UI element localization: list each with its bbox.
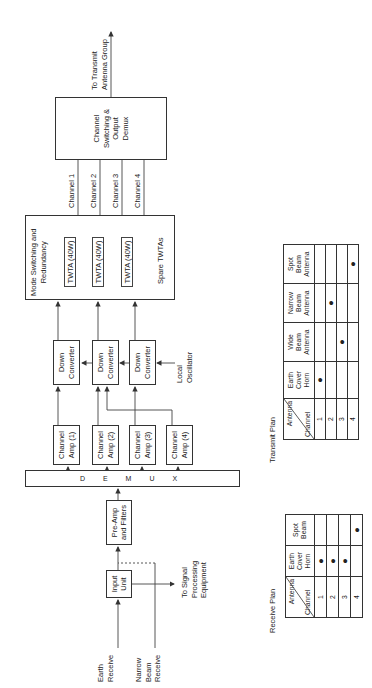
channel-1-label: Channel 1 xyxy=(67,174,77,208)
receive-row-channel: 1 xyxy=(315,577,327,618)
pre-amp-filters-block: Pre-Amp and Filters xyxy=(106,500,132,545)
transmit-mark xyxy=(337,245,348,284)
down-converter-1: Down Converter xyxy=(53,340,80,385)
transmit-mark xyxy=(337,362,348,399)
spare-twtas-label: Spare TWTAs xyxy=(156,238,166,284)
transmit-mark xyxy=(315,284,326,323)
receive-row-channel: 3 xyxy=(339,577,351,618)
to-transmit-antenna-label: To Transmit Antenna Group xyxy=(90,39,109,90)
receive-mark: ● xyxy=(339,546,351,577)
receive-mark: ● xyxy=(315,546,327,577)
transmit-mark xyxy=(348,323,359,362)
receive-corner-antenna: Antenna xyxy=(288,579,296,604)
transmit-mark xyxy=(326,245,337,284)
transmit-row-channel: 4 xyxy=(348,399,359,440)
receive-row-channel: 2 xyxy=(327,577,339,618)
transmit-row-channel: 1 xyxy=(315,399,326,440)
channel-switching-output-demux-block: Channel Switching & Output Demux xyxy=(55,97,167,160)
transmit-mark: ● xyxy=(315,362,326,399)
receive-col-spot-beam: Spot Beam xyxy=(286,515,315,546)
transmit-plan-title: Transmit Plan xyxy=(268,417,277,463)
receive-corner-channel: Channel xyxy=(304,590,312,615)
transmit-mark: ● xyxy=(337,323,348,362)
transmit-row-channel: 3 xyxy=(337,399,348,440)
down-converter-2: Down Converter xyxy=(92,340,119,385)
receive-mark: ● xyxy=(327,546,339,577)
transmit-mark xyxy=(348,362,359,399)
transmit-mark: ● xyxy=(326,284,337,323)
transmit-mark xyxy=(337,284,348,323)
twta-3: TWTA (40W) xyxy=(121,237,133,287)
transmit-mark xyxy=(326,323,337,362)
channel-amp-3: Channel Amp (3) xyxy=(129,425,156,465)
receive-plan-table: Antenna Channel Earth Cover Horn Spot Be… xyxy=(285,514,363,618)
channel-amp-1: Channel Amp (1) xyxy=(53,425,80,465)
receive-mark: ● xyxy=(351,515,363,546)
receive-mark xyxy=(339,515,351,546)
transmit-mark xyxy=(315,323,326,362)
receive-plan-title: Receive Plan xyxy=(268,589,277,633)
channel-3-label: Channel 3 xyxy=(111,174,121,208)
to-signal-processing-label: To Signal Processing Equipment xyxy=(180,561,209,598)
transmit-corner-antenna: Antenna xyxy=(286,401,294,426)
receive-mark xyxy=(315,515,327,546)
transmit-corner-cell: Antenna Channel xyxy=(284,399,315,440)
transmit-mark xyxy=(315,245,326,284)
channel-amp-2: Channel Amp (2) xyxy=(92,425,119,465)
channel-2-label: Channel 2 xyxy=(89,174,99,208)
receive-mark xyxy=(327,515,339,546)
earth-receive-label: Earth Receive xyxy=(96,655,115,682)
twta-2: TWTA (40W) xyxy=(92,237,104,287)
transmit-col-spot-beam: Spot Beam Antenna xyxy=(284,245,315,284)
transmit-col-earth-cover: Earth Cover Horn xyxy=(284,362,315,399)
transmit-mark xyxy=(326,362,337,399)
narrow-beam-receive-label: Narrow Beam Receive xyxy=(134,655,163,682)
channel-amp-4: Channel Amp (4) xyxy=(166,425,193,465)
receive-corner-cell: Antenna Channel xyxy=(286,577,315,618)
down-converter-3: Down Converter xyxy=(129,340,156,385)
transmit-plan-table: Antenna Channel Earth Cover Horn Wide Be… xyxy=(283,244,359,440)
demux-block: D E M U X xyxy=(25,470,240,487)
transmit-row-channel: 2 xyxy=(326,399,337,440)
local-oscillator-label: Local Oscillator xyxy=(175,352,194,383)
input-unit-block: Input Unit xyxy=(106,570,132,598)
mode-switching-block: Mode Switching and Redundancy TWTA (40W)… xyxy=(25,215,175,300)
transmit-corner-channel: Channel xyxy=(304,412,312,437)
channel-4-label: Channel 4 xyxy=(133,174,143,208)
receive-col-earth-cover: Earth Cover Horn xyxy=(286,546,315,577)
twta-1: TWTA (40W) xyxy=(64,237,76,287)
transmit-mark xyxy=(348,284,359,323)
mode-switching-title: Mode Switching and Redundancy xyxy=(29,228,48,296)
transmit-col-wide-beam: Wide Beam Antenna xyxy=(284,323,315,362)
receive-row-channel: 4 xyxy=(351,577,363,618)
receive-mark xyxy=(351,546,363,577)
transmit-mark: ● xyxy=(348,245,359,284)
transmit-col-narrow-beam: Narrow Beam Antenna xyxy=(284,284,315,323)
rotated-page: Earth Receive Narrow Beam Receive Input … xyxy=(0,0,372,688)
